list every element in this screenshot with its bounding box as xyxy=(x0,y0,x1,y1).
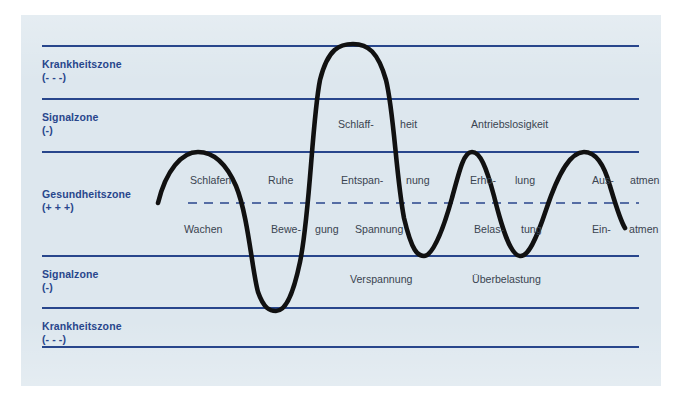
curve-label: atmen xyxy=(629,223,658,235)
curve-label: heit xyxy=(400,118,417,130)
curve-label: tung xyxy=(521,223,542,235)
curve-label: Schlafen xyxy=(190,174,231,186)
zone-sign: (-) xyxy=(42,281,98,294)
curve-label: Erho- xyxy=(470,174,496,186)
curve-label: Spannung xyxy=(355,223,403,235)
curve-label: Aus- xyxy=(592,174,614,186)
curve-label: lung xyxy=(515,174,535,186)
curve-label: Schlaff- xyxy=(338,118,374,130)
zone-sign: (-) xyxy=(42,124,98,137)
curve-label: gung xyxy=(315,223,339,235)
curve-label: Überbelastung xyxy=(472,273,541,285)
curve-label: nung xyxy=(406,174,430,186)
curve-label: Ruhe xyxy=(268,174,293,186)
curve-label: Verspannung xyxy=(350,273,412,285)
zone-label-gesundheitszone: Gesundheitszone (+ + +) xyxy=(42,188,131,213)
zone-label-krankheitszone-bottom: Krankheitszone (- - -) xyxy=(42,320,122,345)
curve-label: atmen xyxy=(630,174,659,186)
zone-name: Signalzone xyxy=(42,268,98,280)
zone-name: Signalzone xyxy=(42,111,98,123)
curve-label: Wachen xyxy=(184,223,222,235)
zone-sign: (- - -) xyxy=(42,71,122,84)
zone-sign: (+ + +) xyxy=(42,201,131,214)
zone-label-signalzone-lower: Signalzone (-) xyxy=(42,268,98,293)
zone-name: Krankheitszone xyxy=(42,58,122,70)
zone-sign: (- - -) xyxy=(42,333,122,346)
curve-label: Antriebslosigkeit xyxy=(471,118,548,130)
zone-name: Krankheitszone xyxy=(42,320,122,332)
zone-label-signalzone-upper: Signalzone (-) xyxy=(42,111,98,136)
curve-label: Belas- xyxy=(474,223,504,235)
curve-label: Entspan- xyxy=(341,174,383,186)
curve-label: Ein- xyxy=(592,223,611,235)
figure-container: Krankheitszone (- - -) Signalzone (-) Ge… xyxy=(0,0,695,404)
zone-name: Gesundheitszone xyxy=(42,188,131,200)
zone-label-krankheitszone-top: Krankheitszone (- - -) xyxy=(42,58,122,83)
curve-label: Bewe- xyxy=(271,223,301,235)
